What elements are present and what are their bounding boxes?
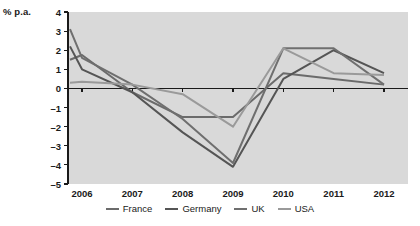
series-line-germany [70,46,384,166]
series-group [70,29,384,167]
chart-root: % p.a. 43210–1–2–3–4–5 20062007200820092… [0,0,420,226]
legend-swatch-icon [234,208,247,210]
chart-svg [0,0,420,226]
chart-legend: FranceGermanyUKUSA [0,203,420,214]
legend-swatch-icon [278,208,291,210]
series-line-uk [70,29,384,163]
legend-label: UK [251,203,264,214]
legend-label: Germany [182,203,221,214]
legend-item-uk[interactable]: UK [234,203,264,214]
legend-item-germany[interactable]: Germany [165,203,221,214]
legend-swatch-icon [165,208,178,210]
legend-label: USA [295,203,315,214]
legend-item-france[interactable]: France [106,203,153,214]
legend-label: France [123,203,153,214]
series-line-usa [70,48,384,126]
legend-swatch-icon [106,208,119,210]
legend-item-usa[interactable]: USA [278,203,315,214]
